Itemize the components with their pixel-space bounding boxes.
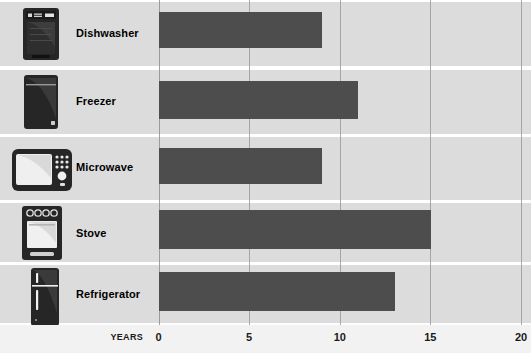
bar-dishwasher — [159, 12, 322, 48]
x-tick-label-20: 20 — [501, 331, 531, 343]
refrigerator-icon — [30, 267, 60, 331]
category-label-freezer: Freezer — [76, 95, 116, 107]
category-label-dishwasher: Dishwasher — [76, 27, 139, 39]
gridline-15 — [430, 0, 431, 325]
gridline-20 — [521, 0, 522, 325]
bar-refrigerator — [159, 272, 395, 311]
appliance-lifespan-bar-chart: DishwasherFreezerMicrowaveStoveRefrigera… — [0, 0, 531, 353]
plot-area: DishwasherFreezerMicrowaveStoveRefrigera… — [0, 0, 531, 325]
x-tick-label-15: 15 — [410, 331, 450, 343]
category-label-microwave: Microwave — [76, 161, 133, 173]
stove-icon — [21, 205, 63, 265]
bar-microwave — [159, 148, 322, 184]
freezer-icon — [23, 74, 59, 134]
x-axis: YEARS 05101520 — [0, 325, 531, 353]
x-tick-label-10: 10 — [320, 331, 360, 343]
bar-stove — [159, 210, 431, 249]
microwave-icon — [11, 148, 73, 196]
x-tick-label-5: 5 — [229, 331, 269, 343]
category-label-refrigerator: Refrigerator — [76, 288, 140, 300]
bar-freezer — [159, 81, 358, 119]
x-tick-label-0: 0 — [139, 331, 179, 343]
category-label-stove: Stove — [76, 227, 106, 239]
dishwasher-icon — [22, 7, 60, 65]
